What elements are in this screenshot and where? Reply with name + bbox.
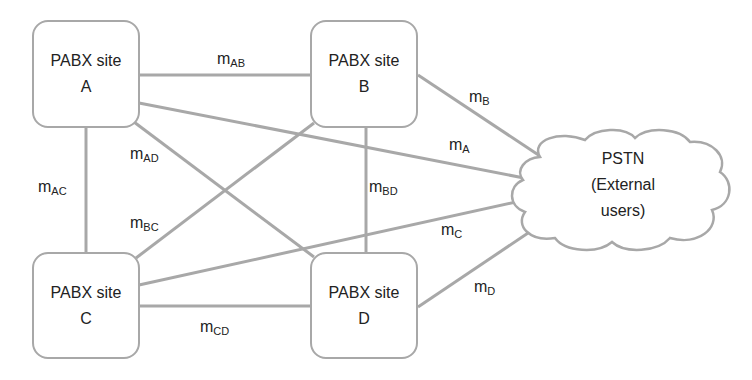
label-m-ad: mAD bbox=[130, 145, 159, 167]
node-a-line2: A bbox=[81, 74, 92, 100]
label-m-cd: mCD bbox=[200, 318, 229, 340]
node-a-line1: PABX site bbox=[51, 48, 122, 74]
node-b-line1: PABX site bbox=[329, 48, 400, 74]
pstn-line2: (External bbox=[548, 172, 698, 198]
node-d-line1: PABX site bbox=[329, 280, 400, 306]
label-m-ac: mAC bbox=[38, 178, 67, 200]
node-d-line2: D bbox=[358, 306, 370, 332]
node-c-line1: PABX site bbox=[51, 280, 122, 306]
label-m-bc: mBC bbox=[130, 214, 159, 236]
pabx-site-d: PABX site D bbox=[310, 252, 418, 359]
label-m-b: mB bbox=[469, 88, 490, 110]
node-c-line2: C bbox=[80, 306, 92, 332]
pstn-line3: users) bbox=[548, 198, 698, 224]
label-m-a: mA bbox=[449, 136, 470, 158]
pabx-site-b: PABX site B bbox=[310, 20, 418, 128]
pabx-site-c: PABX site C bbox=[32, 252, 140, 359]
pabx-network-diagram: PABX site A PABX site B PABX site C PABX… bbox=[0, 0, 752, 380]
label-m-ab: mAB bbox=[217, 50, 245, 72]
node-b-line2: B bbox=[359, 74, 370, 100]
pstn-cloud-label: PSTN (External users) bbox=[548, 146, 698, 224]
pstn-line1: PSTN bbox=[548, 146, 698, 172]
label-m-c: mC bbox=[441, 221, 462, 243]
label-m-d: mD bbox=[474, 278, 495, 300]
pabx-site-a: PABX site A bbox=[32, 20, 140, 128]
label-m-bd: mBD bbox=[369, 178, 398, 200]
